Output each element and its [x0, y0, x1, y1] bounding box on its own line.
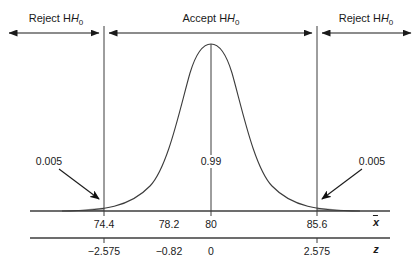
- z-tick-label-neg-2-575: −2.575: [88, 246, 120, 257]
- xbar-tick-label-85-6: 85.6: [307, 219, 327, 230]
- h-symbol-right: H: [381, 12, 389, 24]
- xbar-tick-label-80: 80: [205, 219, 217, 230]
- xbar-tick-label-74-4: 74.4: [94, 219, 114, 230]
- region-label-accept: Accept HH0: [182, 13, 239, 27]
- xbar-tick-label-78-2: 78.2: [159, 219, 179, 230]
- z-axis-label: z: [373, 244, 379, 255]
- z-tick-label-0: 0: [208, 246, 214, 257]
- h-symbol-left: H: [71, 12, 79, 24]
- region-label-reject-right: Reject HH0: [339, 13, 394, 27]
- region-label-reject-left: Reject HH0: [29, 13, 84, 27]
- h-subscript-left: 0: [79, 18, 83, 27]
- accept-text: Accept H: [182, 12, 227, 24]
- reject-left-text: Reject H: [29, 12, 71, 24]
- tail-probability-left: 0.005: [36, 156, 62, 167]
- h-subscript-center: 0: [235, 18, 239, 27]
- tail-probability-right: 0.005: [359, 156, 385, 167]
- reject-right-text: Reject H: [339, 12, 381, 24]
- h-subscript-right: 0: [389, 18, 393, 27]
- xbar-axis-label: x: [373, 217, 379, 228]
- z-tick-label-2-575: 2.575: [304, 246, 330, 257]
- right-tail-leader-arrow: [322, 169, 362, 199]
- hypothesis-test-figure: Reject HH0 Accept HH0 Reject HH0 0.005 0…: [0, 0, 420, 268]
- h-symbol-center: H: [227, 12, 235, 24]
- left-tail-leader-arrow: [59, 169, 99, 199]
- xbar-symbol: x: [373, 217, 379, 228]
- z-tick-label-neg-0-82: −0.82: [156, 246, 183, 257]
- center-probability: 0.99: [198, 155, 224, 168]
